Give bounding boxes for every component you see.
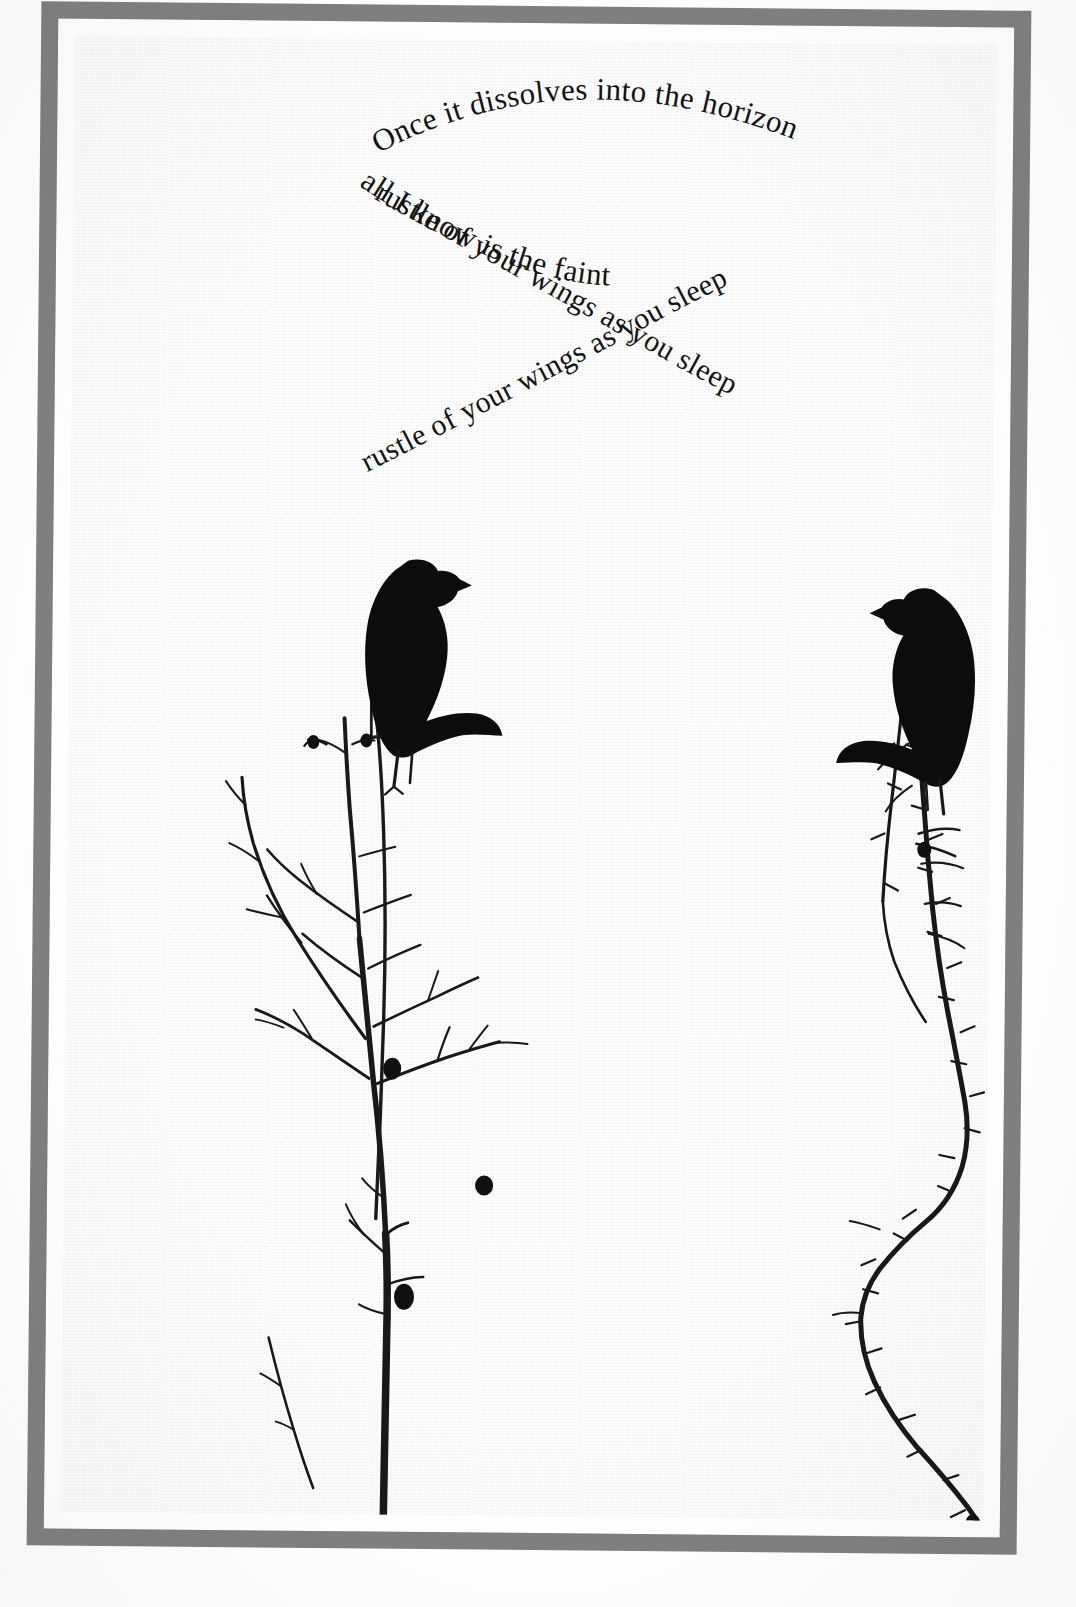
poem-line-arc-upright: Once it dissolves into the horizon [365, 69, 804, 163]
artwork-canvas: Once it dissolves into the horizon all I… [0, 0, 1076, 1607]
poem-text-layer: Once it dissolves into the horizon all I… [61, 36, 997, 1521]
picture-frame: Once it dissolves into the horizon all I… [27, 1, 1032, 1554]
artwork-content: Once it dissolves into the horizon all I… [61, 36, 997, 1521]
print-paper: Once it dissolves into the horizon all I… [61, 36, 997, 1521]
poem-arc-upright-text: Once it dissolves into the horizon [365, 69, 804, 163]
frame-border: Once it dissolves into the horizon all I… [27, 1, 1032, 1554]
